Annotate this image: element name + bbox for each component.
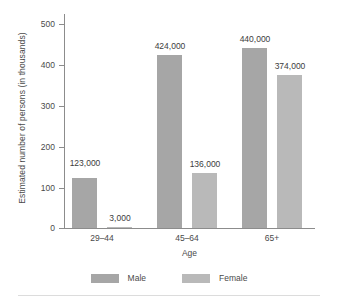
y-axis-line	[64, 14, 65, 229]
legend-swatch-male-icon	[91, 274, 119, 283]
bar-female-45-64	[192, 173, 217, 228]
bar-value-male-45-64: 424,000	[145, 42, 195, 51]
legend-swatch-female-icon	[182, 274, 210, 283]
y-tick-label-100: 100	[15, 184, 55, 193]
y-tick-500	[59, 24, 65, 25]
bar-value-male-29-44: 123,000	[60, 159, 110, 168]
x-category-label-65-plus: 65+	[247, 233, 297, 243]
y-tick-label-300: 300	[15, 102, 55, 111]
x-category-label-29-44: 29–44	[77, 233, 127, 243]
footer-divider	[18, 295, 320, 296]
legend-label-male: Male	[128, 274, 146, 283]
chart-legend: Male Female	[0, 274, 338, 283]
legend-label-female: Female	[219, 274, 247, 283]
bar-value-female-29-44: 3,000	[95, 214, 145, 223]
y-tick-400	[59, 65, 65, 66]
bar-male-29-44	[72, 178, 97, 228]
y-tick-0	[59, 228, 65, 229]
x-axis-title: Age	[64, 248, 315, 258]
bar-value-female-45-64: 136,000	[180, 160, 230, 169]
bar-female-29-44	[107, 227, 132, 228]
y-tick-label-200: 200	[15, 143, 55, 152]
y-axis-title: Estimated number of persons (in thousand…	[17, 11, 27, 225]
x-axis-line	[64, 228, 315, 229]
bar-male-45-64	[157, 55, 182, 228]
y-tick-label-500: 500	[15, 20, 55, 29]
bar-female-65-plus	[277, 75, 302, 228]
bar-male-65-plus	[242, 48, 267, 228]
y-tick-100	[59, 188, 65, 189]
x-category-label-45-64: 45–64	[162, 233, 212, 243]
y-tick-label-400: 400	[15, 61, 55, 70]
bar-value-male-65-plus: 440,000	[230, 35, 280, 44]
y-tick-300	[59, 106, 65, 107]
y-tick-label-0: 0	[15, 224, 55, 233]
grouped-bar-chart: Estimated number of persons (in thousand…	[0, 0, 338, 303]
legend-item-female: Female	[182, 274, 247, 283]
bar-value-female-65-plus: 374,000	[265, 62, 315, 71]
legend-item-male: Male	[91, 274, 146, 283]
y-tick-200	[59, 147, 65, 148]
